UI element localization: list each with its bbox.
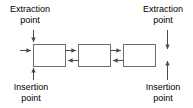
label-extraction-point-left: Extraction point: [1, 4, 59, 26]
label-line-1: Insertion: [134, 82, 192, 93]
label-line-1: Extraction: [134, 4, 192, 15]
node-box-1: [34, 45, 66, 67]
label-extraction-point-right: Extraction point: [134, 4, 192, 26]
label-line-2: point: [134, 15, 192, 26]
label-line-2: point: [134, 93, 192, 104]
node-box-2: [79, 45, 111, 67]
node-box-3: [124, 45, 156, 67]
label-insertion-point-right: Insertion point: [134, 82, 192, 104]
label-insertion-point-left: Insertion point: [2, 82, 60, 104]
linked-list-diagram: Extraction point Extraction point Insert…: [0, 0, 193, 108]
label-line-2: point: [1, 15, 59, 26]
label-line-1: Extraction: [1, 4, 59, 15]
label-line-1: Insertion: [2, 82, 60, 93]
label-line-2: point: [2, 93, 60, 104]
